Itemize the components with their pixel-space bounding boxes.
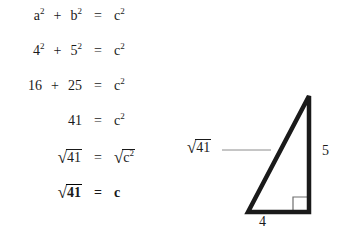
term-base: 41 [68,113,82,128]
equals-sign: = [82,8,114,24]
radical-sqrt-41: √41 [187,138,211,158]
term-exponent: 2 [120,6,125,16]
term-25: 25 [68,78,82,93]
term-b-squared: b2 [71,8,83,23]
hypotenuse-label: √41 [187,138,211,158]
radicand: 41 [66,184,82,201]
term-base: 5 [71,43,78,58]
term-exponent: 2 [120,111,125,121]
equation-list: a2+b2 = c2 42+52 = c2 16+25 = c2 [0,8,175,218]
radicand: 41 [195,139,211,156]
term-a-squared: a2 [34,8,45,23]
equation-left-side: 16+25 [0,78,82,94]
radicand-value: 41 [196,140,210,155]
equation-left-side: 41 [0,113,82,129]
equation-row: 42+52 = c2 [0,43,175,78]
equation-row: 41 = c2 [0,113,175,148]
term-c: c [114,185,120,200]
equation-row: a2+b2 = c2 [0,8,175,43]
pythagorean-theorem-worksheet: a2+b2 = c2 42+52 = c2 16+25 = c2 [0,0,347,242]
equation-right-side: c [114,185,169,201]
term-c-squared: c2 [114,113,125,128]
term-16: 16 [28,78,42,93]
term-exponent: 2 [120,76,125,86]
term-5-squared: 52 [71,43,83,58]
radicand: c2 [122,149,135,166]
radical-sqrt-c-squared: √c2 [114,148,135,168]
equals-sign: = [82,78,114,94]
plus-operator: + [45,43,71,59]
plus-operator: + [45,8,71,24]
radicand: 41 [66,149,82,166]
equation-left-side: 42+52 [0,43,82,59]
term-c-squared: c2 [114,43,125,58]
equation-right-side: √c2 [114,148,169,168]
term-base: b [71,8,78,23]
equation-left-side: √41 [0,183,82,203]
equation-right-side: c2 [114,78,169,94]
equation-right-side: c2 [114,43,169,59]
equation-row: 16+25 = c2 [0,78,175,113]
equation-right-side: c2 [114,8,169,24]
radicand-exponent: 2 [130,148,135,158]
equation-left-side: √41 [0,148,82,168]
plus-operator: + [42,78,68,94]
term-base: c [114,185,120,200]
radical-sqrt-41: √41 [58,183,82,203]
equals-sign: = [82,150,114,166]
right-triangle-diagram: √41 5 4 [185,86,347,242]
triangle-outline [248,96,309,212]
term-41: 41 [68,113,82,128]
horizontal-leg-label: 4 [259,214,266,230]
triangle-svg [185,86,347,242]
equation-left-side: a2+b2 [0,8,82,24]
term-base: 25 [68,78,82,93]
equals-sign: = [82,113,114,129]
equals-sign: = [82,43,114,59]
equation-right-side: c2 [114,113,169,129]
term-base: 16 [28,78,42,93]
equation-row: √41 = √c2 [0,148,175,183]
radical-sqrt-41: √41 [58,148,82,168]
term-exponent: 2 [120,41,125,51]
equation-row-final: √41 = c [0,183,175,218]
term-base: 4 [33,43,40,58]
term-c-squared: c2 [114,8,125,23]
term-4-squared: 42 [33,43,45,58]
equals-sign: = [82,185,114,201]
radicand-value: 41 [67,185,81,200]
radicand-value: 41 [67,150,81,165]
vertical-leg-label: 5 [322,143,329,159]
term-c-squared: c2 [114,78,125,93]
